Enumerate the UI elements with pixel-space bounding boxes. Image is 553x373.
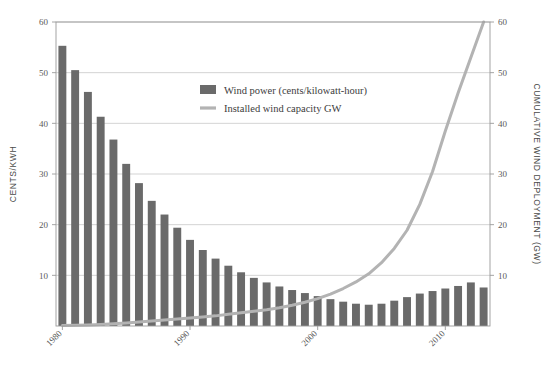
xtick-label-2000: 2000 xyxy=(299,328,319,348)
right-axis-title: CUMULATIVE WIND DEPLOYMENT (GW) xyxy=(532,83,542,264)
y2tick-label-20: 20 xyxy=(498,220,508,230)
bar-2008 xyxy=(416,294,424,326)
ytick-label-30: 30 xyxy=(39,169,49,179)
bar-2002 xyxy=(339,302,347,326)
xtick-label-2010: 2010 xyxy=(427,328,447,348)
bar-2009 xyxy=(429,291,437,326)
bar-1988 xyxy=(161,215,169,326)
bar-1996 xyxy=(263,282,271,326)
xtick-label-1980: 1980 xyxy=(44,328,64,348)
bar-1998 xyxy=(288,290,296,326)
bar-2007 xyxy=(403,297,411,326)
bar-2006 xyxy=(390,301,398,326)
bar-1993 xyxy=(224,266,232,326)
bar-1984 xyxy=(109,140,117,326)
bar-2011 xyxy=(454,286,462,326)
bar-1983 xyxy=(97,117,105,326)
bar-2004 xyxy=(365,305,373,326)
legend-label-installed-capacity: Installed wind capacity GW xyxy=(224,103,342,114)
y2tick-label-40: 40 xyxy=(498,119,508,129)
bar-2010 xyxy=(441,289,449,326)
wind-cost-capacity-chart: 1020304050601020304050601980199020002010… xyxy=(0,0,553,373)
bar-2003 xyxy=(352,304,360,326)
bar-1990 xyxy=(186,240,194,326)
ytick-label-40: 40 xyxy=(39,119,49,129)
bar-1995 xyxy=(250,278,258,326)
bar-1991 xyxy=(199,250,207,326)
ytick-label-60: 60 xyxy=(39,17,49,27)
left-axis-title: CENTS/KWH xyxy=(8,146,18,202)
bar-1986 xyxy=(135,183,143,326)
bar-1999 xyxy=(301,293,309,326)
bar-1980 xyxy=(58,46,66,326)
ytick-label-10: 10 xyxy=(39,271,49,281)
bar-1982 xyxy=(84,92,92,326)
bar-1994 xyxy=(237,272,245,326)
ytick-label-50: 50 xyxy=(39,68,49,78)
y2tick-label-10: 10 xyxy=(498,271,508,281)
bar-2005 xyxy=(378,304,386,326)
bar-1981 xyxy=(71,70,79,326)
bar-1987 xyxy=(148,201,156,326)
y2tick-label-60: 60 xyxy=(498,17,508,27)
bar-2001 xyxy=(326,299,334,326)
legend-swatch-wind-power xyxy=(200,85,216,94)
y2tick-label-30: 30 xyxy=(498,169,508,179)
bar-2013 xyxy=(480,287,488,326)
y2tick-label-50: 50 xyxy=(498,68,508,78)
xtick-label-1990: 1990 xyxy=(172,328,192,348)
bar-1989 xyxy=(173,228,181,326)
legend-label-wind-power: Wind power (cents/kilowatt-hour) xyxy=(224,85,368,97)
ytick-label-20: 20 xyxy=(39,220,49,230)
chart-canvas: 1020304050601020304050601980199020002010… xyxy=(0,0,553,373)
bar-1985 xyxy=(122,164,130,326)
bar-2012 xyxy=(467,282,475,326)
